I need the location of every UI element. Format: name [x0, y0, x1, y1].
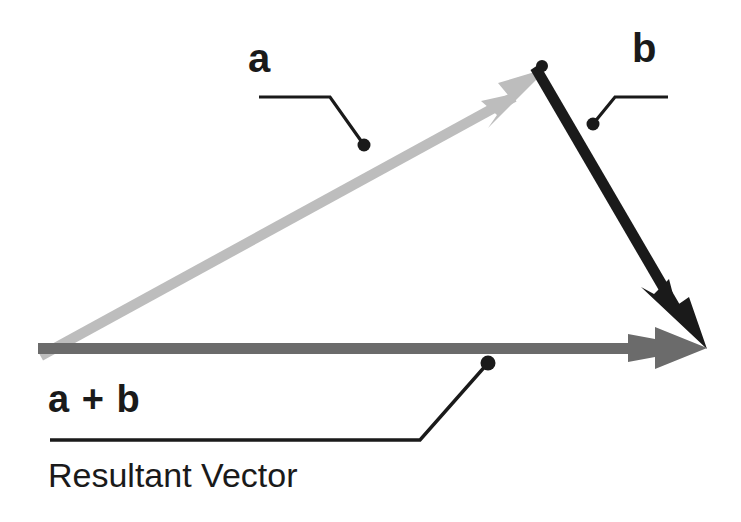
leader-a-dot	[358, 139, 371, 152]
vector-diagram-canvas	[0, 0, 741, 522]
vector-b-origin-dot	[536, 60, 548, 72]
vector-a-label: a	[248, 38, 270, 78]
leader-resultant-dot	[481, 356, 496, 371]
leader-b-dot	[587, 118, 600, 131]
vector-diagram: a b a + b Resultant Vector	[0, 0, 741, 522]
vector-a-shaft	[38, 93, 517, 361]
leader-b	[587, 97, 669, 131]
resultant-caption-label: Resultant Vector	[48, 458, 297, 492]
vector-b-label: b	[632, 28, 656, 68]
vector-resultant-graphic	[38, 327, 707, 369]
vector-b-graphic	[531, 60, 708, 349]
leader-b-line	[593, 97, 668, 124]
leader-a	[259, 97, 371, 152]
vector-resultant-shaft	[38, 343, 656, 354]
vector-a-graphic	[38, 68, 548, 361]
leader-a-line	[259, 97, 364, 145]
resultant-sum-label: a + b	[48, 380, 141, 418]
vector-b-shaft	[531, 64, 684, 317]
